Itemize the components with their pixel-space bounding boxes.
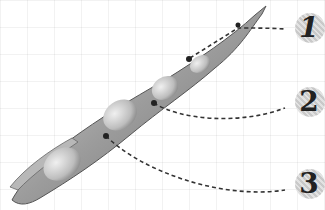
pointer-dot-1: [186, 56, 192, 62]
label-2: 2: [295, 87, 325, 117]
leader-line-2: [154, 103, 285, 119]
label-3: 3: [295, 169, 325, 199]
pointer-dot-2: [151, 100, 157, 106]
leader-line-3: [106, 136, 285, 192]
pea-pod-illustration: [0, 0, 325, 210]
label-1: 1: [295, 13, 325, 43]
pointer-dot-1b: [236, 23, 241, 28]
label-1-text: 1: [299, 14, 318, 42]
label-3-text: 3: [299, 170, 318, 198]
pointer-dot-3: [103, 133, 109, 139]
label-2-text: 2: [299, 88, 318, 116]
